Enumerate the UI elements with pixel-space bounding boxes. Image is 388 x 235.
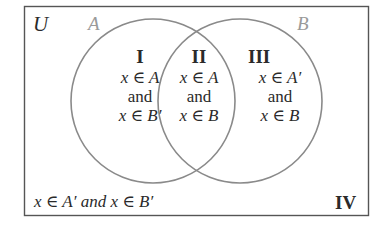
region-iii-line3: x ∈ B [230,106,330,125]
universal-set-label: U [33,14,48,35]
region-ii-line3: x ∈ B [161,106,237,125]
set-a-label: A [88,14,100,33]
region-ii-numeral: II [161,47,237,66]
region-ii-line1: x ∈ A [161,68,237,87]
set-b-label: B [297,14,309,33]
region-iv-numeral: IV [335,193,356,212]
region-iv-description: x ∈ A′ and x ∈ B′ [34,193,153,210]
region-iii-line2: and [230,87,330,106]
region-ii: II x ∈ A and x ∈ B [161,47,237,125]
region-iii-numeral: III [230,47,330,66]
region-iii: III x ∈ A′ and x ∈ B [230,47,330,125]
region-iii-line1: x ∈ A′ [230,68,330,87]
region-ii-line2: and [161,87,237,106]
